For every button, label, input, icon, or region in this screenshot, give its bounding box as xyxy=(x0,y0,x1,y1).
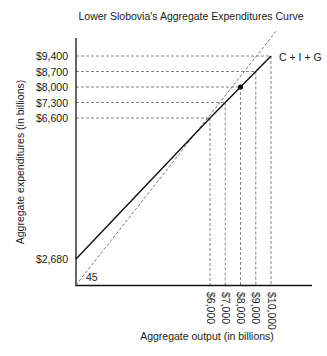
x-tick-label: $9,000 xyxy=(250,292,262,324)
axes xyxy=(76,38,313,286)
series-label-45: 45 xyxy=(86,271,98,283)
x-tick-label: $10,000 xyxy=(266,292,278,330)
y-tick-label: $9,400 xyxy=(36,50,68,62)
x-tick-label: $6,000 xyxy=(205,292,217,324)
x-tick-labels: $6,000$7,000$8,000$9,000$10,000 xyxy=(205,292,278,330)
series-group xyxy=(76,30,277,285)
x-axis-label: Aggregate output (in billions) xyxy=(140,330,274,342)
equilibrium-point xyxy=(238,84,243,89)
x-tick-label: $7,000 xyxy=(220,292,232,324)
y-tick-label: $8,700 xyxy=(36,66,68,78)
y-tick-label: $2,680 xyxy=(36,253,68,265)
line-45-degree xyxy=(76,30,277,285)
y-tick-label: $7,300 xyxy=(36,97,68,109)
series-label-cig: C + I + G xyxy=(279,51,322,63)
chart: Lower Slobovia's Aggregate Expenditures … xyxy=(0,0,327,356)
chart-title: Lower Slobovia's Aggregate Expenditures … xyxy=(79,10,304,22)
guide-lines xyxy=(76,56,271,285)
x-tick-label: $8,000 xyxy=(235,292,247,324)
y-tick-label: $8,000 xyxy=(36,81,68,93)
y-tick-label: $6,600 xyxy=(36,112,68,124)
y-tick-labels: $2,680$6,600$7,300$8,000$8,700$9,400 xyxy=(36,50,68,265)
y-axis-label: Aggregate expenditures (in billions) xyxy=(14,80,26,245)
